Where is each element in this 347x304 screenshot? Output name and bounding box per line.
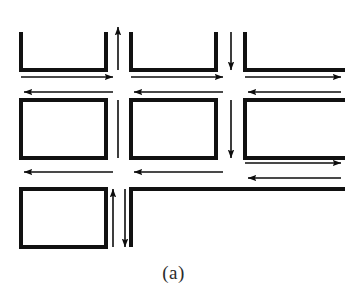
figure-caption: (a) <box>0 262 347 284</box>
street-network-diagram <box>0 0 347 266</box>
diagram-background <box>0 0 347 266</box>
figure-container: (a) <box>0 0 347 304</box>
